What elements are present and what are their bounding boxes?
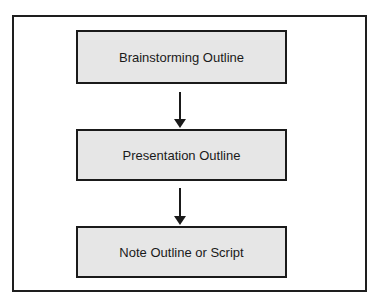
node-label: Brainstorming Outline bbox=[119, 50, 244, 65]
arrow-shaft bbox=[179, 92, 181, 120]
node-presentation-outline: Presentation Outline bbox=[76, 129, 287, 181]
node-brainstorming-outline: Brainstorming Outline bbox=[76, 30, 287, 84]
arrow-head bbox=[174, 119, 186, 128]
node-note-outline-or-script: Note Outline or Script bbox=[76, 226, 287, 278]
arrow-shaft bbox=[179, 188, 181, 217]
arrow-down-icon bbox=[174, 188, 186, 225]
arrow-down-icon bbox=[174, 92, 186, 128]
arrow-head bbox=[174, 216, 186, 225]
node-label: Presentation Outline bbox=[123, 148, 241, 163]
node-label: Note Outline or Script bbox=[119, 245, 243, 260]
